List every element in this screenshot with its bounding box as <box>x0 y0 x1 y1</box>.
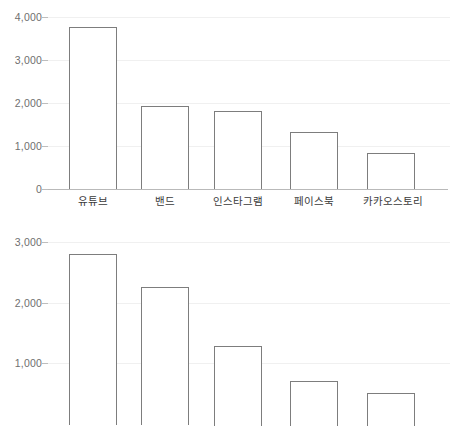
tick-dash-2000 <box>42 103 48 104</box>
bar-band[interactable] <box>141 106 189 189</box>
tick-dash-1000 <box>42 146 48 147</box>
tick-dash-1000-b <box>42 363 48 364</box>
bar-chart-bottom: 3,000 2,000 1,000 <box>0 210 450 395</box>
plot-area-top: 4,000 3,000 2,000 1,000 0 유튜브 밴드 인스타그램 페… <box>0 0 450 210</box>
gridline-4000 <box>48 17 450 18</box>
bar-chart-top: 4,000 3,000 2,000 1,000 0 유튜브 밴드 인스타그램 페… <box>0 0 450 210</box>
bar-kakaostory[interactable] <box>367 153 415 189</box>
y-tick-label-2000: 2,000 <box>0 98 42 109</box>
bar-instagram[interactable] <box>214 111 262 189</box>
y-tick-label-3000-b: 3,000 <box>0 237 42 248</box>
axis-baseline-top <box>48 189 448 190</box>
y-tick-label-1000-b: 1,000 <box>0 358 42 369</box>
gridline-3000-b <box>48 242 450 243</box>
bar-youtube-b[interactable] <box>69 254 117 425</box>
tick-dash-3000-b <box>42 242 48 243</box>
bar-facebook-b[interactable] <box>290 381 338 426</box>
y-tick-label-3000: 3,000 <box>0 55 42 66</box>
x-category-label-band: 밴드 <box>141 196 189 207</box>
plot-area-bottom: 3,000 2,000 1,000 <box>0 210 450 395</box>
y-tick-label-0: 0 <box>0 184 42 195</box>
bar-band-b[interactable] <box>141 287 189 425</box>
tick-dash-4000 <box>42 17 48 18</box>
x-category-label-instagram: 인스타그램 <box>205 196 271 207</box>
x-category-label-kakaostory: 카카오스토리 <box>355 196 430 207</box>
bar-instagram-b[interactable] <box>214 346 262 426</box>
y-tick-label-1000: 1,000 <box>0 141 42 152</box>
bar-youtube[interactable] <box>69 27 117 189</box>
tick-dash-0 <box>42 189 48 190</box>
tick-dash-2000-b <box>42 303 48 304</box>
bar-facebook[interactable] <box>290 132 338 189</box>
x-category-label-youtube: 유튜브 <box>69 196 117 207</box>
x-category-label-facebook: 페이스북 <box>284 196 344 207</box>
tick-dash-3000 <box>42 60 48 61</box>
bar-kakaostory-b[interactable] <box>367 393 415 426</box>
y-tick-label-2000-b: 2,000 <box>0 298 42 309</box>
y-tick-label-4000: 4,000 <box>0 12 42 23</box>
